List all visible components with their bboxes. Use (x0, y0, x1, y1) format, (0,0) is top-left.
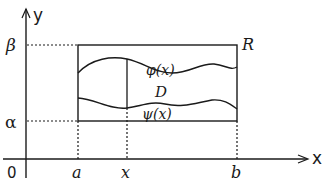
guide-lines (27, 45, 237, 159)
x-tick-label: x (121, 163, 130, 182)
x-axis (3, 155, 308, 163)
x-axis-label: x (312, 148, 322, 168)
psi-label: ψ(x) (142, 106, 172, 122)
origin-label: 0 (7, 164, 17, 182)
b-tick-label: b (231, 163, 241, 182)
beta-label: β (5, 35, 16, 55)
a-tick-label: a (72, 163, 82, 182)
rectangle-label: R (241, 35, 254, 54)
phi-label: φ(x) (146, 62, 175, 78)
y-axis-label: y (33, 5, 43, 25)
region-label: D (154, 83, 167, 101)
y-axis (22, 9, 30, 178)
region-diagram: y x 0 β α a x b R D φ(x) ψ(x) (0, 0, 330, 183)
alpha-label: α (5, 112, 17, 132)
